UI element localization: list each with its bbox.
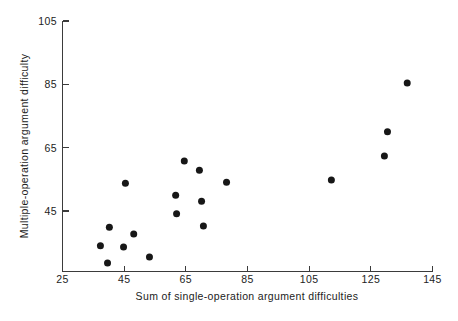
data-point: [381, 152, 388, 159]
data-point: [97, 242, 104, 249]
y-axis-title: Multiple-operation argument difficulty: [18, 53, 30, 238]
axes-group: [63, 21, 433, 272]
data-point: [172, 192, 179, 199]
data-point: [106, 224, 113, 231]
y-tick-label: 65: [45, 142, 57, 154]
x-axis-ticks: [63, 266, 433, 272]
data-point: [200, 222, 207, 229]
data-point: [196, 167, 203, 174]
data-point: [173, 210, 180, 217]
x-tick-label: 125: [361, 273, 380, 285]
data-point: [120, 244, 127, 251]
x-tick-label: 25: [56, 273, 68, 285]
y-tick-label: 105: [38, 15, 57, 27]
x-axis-tick-labels: 25456585105125145: [56, 273, 442, 285]
y-tick-label: 85: [45, 78, 57, 90]
data-point: [328, 176, 335, 183]
y-axis-tick-labels: 456585105: [38, 15, 57, 217]
x-axis-title: Sum of single-operation argument difficu…: [136, 290, 359, 302]
data-points-group: [97, 80, 411, 267]
data-point: [130, 231, 137, 238]
data-point: [404, 80, 411, 87]
data-point: [384, 128, 391, 135]
data-point: [122, 180, 129, 187]
y-tick-label: 45: [45, 205, 57, 217]
plot-canvas: 25456585105125145 456585105 Sum of singl…: [0, 0, 458, 321]
x-tick-label: 45: [118, 273, 130, 285]
y-axis-ticks: [63, 21, 69, 211]
x-tick-label: 145: [423, 273, 442, 285]
scatter-plot-figure: 25456585105125145 456585105 Sum of singl…: [0, 0, 458, 321]
data-point: [104, 259, 111, 266]
data-point: [146, 253, 153, 260]
x-tick-label: 85: [241, 273, 253, 285]
x-tick-label: 65: [180, 273, 192, 285]
data-point: [181, 157, 188, 164]
data-point: [198, 198, 205, 205]
x-tick-label: 105: [300, 273, 319, 285]
data-point: [223, 179, 230, 186]
